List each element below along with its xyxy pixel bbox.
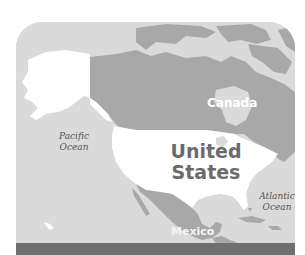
bottom-bar — [16, 243, 295, 255]
united-states-line1: United — [164, 141, 248, 162]
country-label-mexico: Mexico — [171, 225, 214, 238]
pacific-line2: Ocean — [54, 142, 94, 153]
ocean-label-pacific: Pacific Ocean — [54, 131, 94, 153]
country-label-canada: Canada — [207, 96, 257, 110]
pacific-line1: Pacific — [54, 131, 94, 142]
atlantic-line1: Atlantic — [255, 191, 299, 202]
ocean-label-atlantic: Atlantic Ocean — [255, 191, 299, 213]
atlantic-line2: Ocean — [255, 202, 299, 213]
country-label-united-states: United States — [164, 141, 248, 183]
united-states-line2: States — [164, 162, 248, 183]
